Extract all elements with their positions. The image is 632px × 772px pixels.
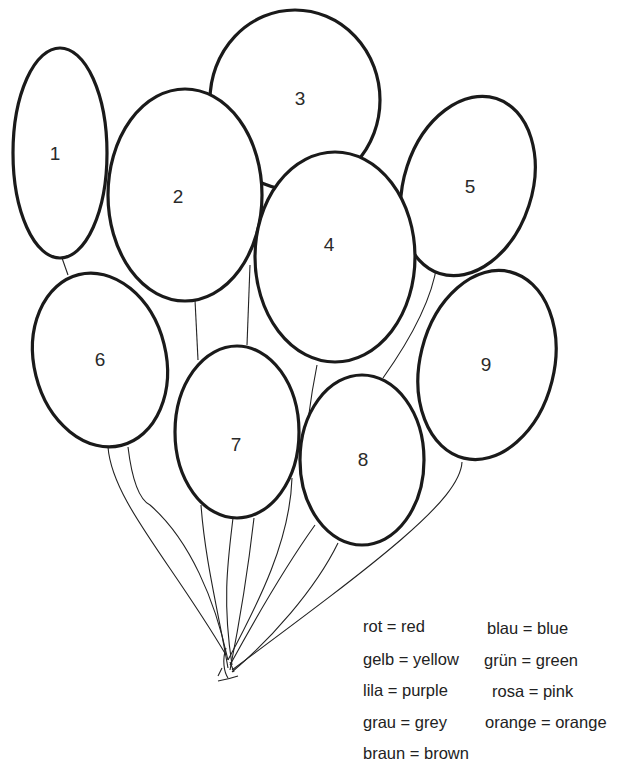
balloon-8[interactable]: 8: [300, 375, 424, 545]
legend-entry-orange: orange = orange: [485, 713, 607, 732]
balloon-number: 5: [465, 176, 476, 197]
balloon-7[interactable]: 7: [175, 346, 299, 518]
balloon-number: 1: [50, 143, 61, 164]
balloon-4[interactable]: 4: [255, 152, 415, 362]
legend-entry-brown: braun = brown: [363, 744, 469, 763]
legend-entry-green: grün = green: [484, 651, 578, 670]
legend-entry-yellow: gelb = yellow: [363, 650, 459, 669]
balloon-2[interactable]: 2: [108, 89, 262, 301]
legend-entry-blue: blau = blue: [487, 619, 568, 638]
legend-entry-pink: rosa = pink: [492, 682, 573, 701]
balloon-number: 3: [295, 88, 306, 109]
balloon-number: 8: [358, 449, 369, 470]
legend-entry-purple: lila = purple: [363, 681, 448, 700]
balloon-number: 7: [231, 434, 242, 455]
balloon-number: 9: [481, 354, 492, 375]
balloon-1[interactable]: 1: [13, 48, 107, 258]
legend-entry-red: rot = red: [363, 617, 425, 636]
balloon-number: 4: [324, 234, 335, 255]
balloon-number: 6: [95, 349, 106, 370]
balloon-9[interactable]: 9: [399, 256, 575, 475]
balloon-number: 2: [173, 186, 184, 207]
legend-entry-grey: grau = grey: [363, 713, 447, 732]
